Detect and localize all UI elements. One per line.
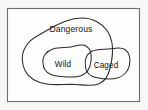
diagram-canvas: Dangerous Wild Caged <box>0 0 148 110</box>
set-label-caged: Caged <box>94 61 119 70</box>
universe-rectangle <box>8 9 140 102</box>
set-label-dangerous: Dangerous <box>50 24 93 34</box>
set-label-wild: Wild <box>55 60 72 69</box>
euler-diagram: Dangerous Wild Caged <box>0 0 148 110</box>
